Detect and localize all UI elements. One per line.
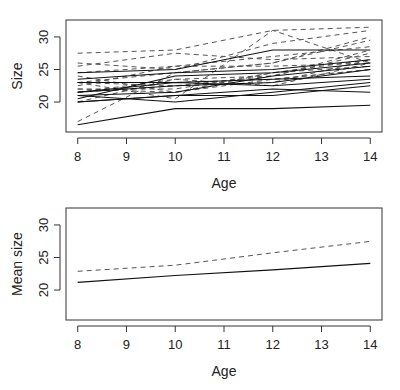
y-tick-label: 30 [36, 30, 51, 44]
x-tick-label: 13 [314, 337, 328, 352]
x-tick-label: 12 [266, 149, 280, 164]
x-tick-label: 9 [123, 149, 130, 164]
x-tick-label: 8 [74, 337, 81, 352]
series-line-female-mean [78, 263, 371, 282]
individual-growth-panel: 891011121314Age202530Size [9, 20, 382, 191]
series-line-f08 [78, 76, 371, 83]
y-axis-label: Mean size [9, 232, 25, 296]
y-axis-label: Size [9, 62, 25, 89]
x-tick-label: 10 [168, 149, 182, 164]
x-tick-label: 13 [314, 149, 328, 164]
y-tick-label: 20 [36, 95, 51, 109]
mean-growth-panel: 891011121314Age202530Mean size [9, 208, 382, 379]
plot-frame [66, 208, 382, 320]
y-tick-label: 30 [36, 218, 51, 232]
x-axis-label: Age [212, 175, 237, 191]
x-tick-label: 12 [266, 337, 280, 352]
x-tick-label: 8 [74, 149, 81, 164]
x-tick-label: 11 [217, 337, 231, 352]
series-line-m10 [78, 27, 371, 53]
plot-frame [66, 20, 382, 132]
x-tick-label: 14 [363, 337, 377, 352]
x-tick-label: 10 [168, 337, 182, 352]
x-axis-label: Age [212, 363, 237, 379]
x-tick-label: 9 [123, 337, 130, 352]
x-tick-label: 14 [363, 149, 377, 164]
chart-canvas: 891011121314Age202530Size 891011121314Ag… [0, 0, 400, 390]
x-tick-label: 11 [217, 149, 231, 164]
y-tick-label: 25 [36, 62, 51, 76]
y-tick-label: 25 [36, 250, 51, 264]
y-tick-label: 20 [36, 283, 51, 297]
series-line-f10 [78, 105, 371, 125]
